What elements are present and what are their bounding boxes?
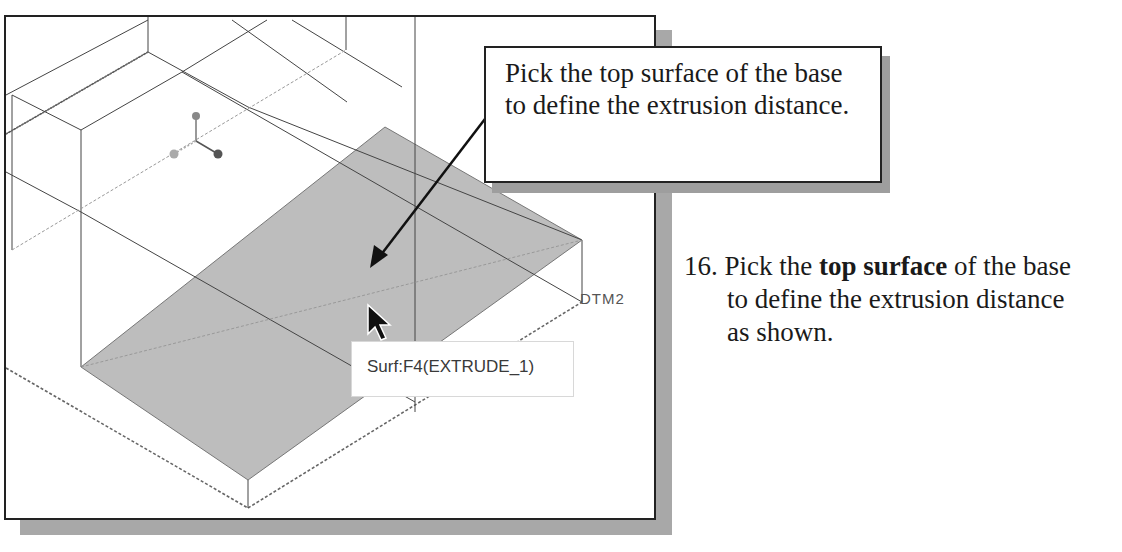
surface-tooltip: Surf:F4(EXTRUDE_1)	[351, 341, 574, 397]
step-text-before: Pick the	[725, 251, 813, 281]
step-bold-text: top surface	[819, 251, 947, 281]
coordinate-triad-icon	[170, 112, 223, 159]
datum-plane-label: DTM2	[580, 290, 625, 307]
step-number: 16.	[684, 250, 718, 283]
callout-box: Pick the top surface of the base to defi…	[484, 46, 882, 183]
step-text-after: of the base	[954, 251, 1071, 281]
step-line-2: to define the extrusion distance	[684, 283, 1122, 316]
step-line-3: as shown.	[684, 316, 1122, 349]
instruction-step: 16. Pick the top surface of the base to …	[684, 250, 1122, 349]
